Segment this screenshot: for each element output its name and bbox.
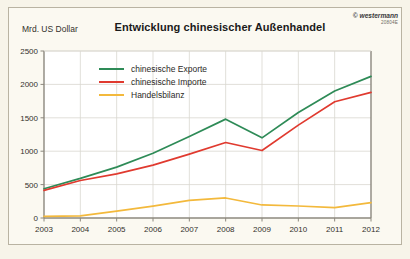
gridlines-group	[44, 51, 371, 218]
legend-item: chinesische Importe	[99, 75, 207, 88]
y-tick-label: 2500	[20, 47, 38, 56]
legend-item: chinesische Exporte	[99, 62, 207, 75]
legend-color-swatch	[99, 68, 124, 70]
x-tick-label: 2006	[144, 225, 162, 234]
x-tick-label: 2011	[326, 225, 344, 234]
legend-label: chinesische Importe	[131, 77, 207, 87]
legend-color-swatch	[99, 94, 124, 96]
y-tick-label: 2000	[20, 80, 38, 89]
series-line-0	[44, 76, 371, 188]
legend-color-swatch	[99, 81, 124, 83]
x-tick-label: 2004	[71, 225, 89, 234]
x-tick-label: 2003	[35, 225, 53, 234]
legend-label: Handelsbilanz	[131, 90, 184, 100]
data-series-group	[44, 76, 371, 216]
chart-frame: Mrd. US Dollar Entwicklung chinesischer …	[0, 0, 410, 259]
y-tick-label: 1500	[20, 114, 38, 123]
x-tick-label: 2008	[217, 225, 235, 234]
x-tick-label: 2009	[253, 225, 271, 234]
y-tick-labels-group: 05001000150020002500	[20, 47, 38, 223]
chart-legend: chinesische Exportechinesische ImporteHa…	[99, 62, 207, 101]
legend-label: chinesische Exporte	[131, 64, 207, 74]
x-tick-label: 2005	[108, 225, 126, 234]
x-tick-labels-group: 2003200420052006200720082009201020112012	[35, 225, 380, 234]
x-tick-label: 2012	[362, 225, 380, 234]
y-tick-label: 500	[25, 181, 39, 190]
chart-plot: 05001000150020002500 2003200420052006200…	[0, 0, 410, 259]
y-tick-label: 0	[34, 214, 39, 223]
series-line-1	[44, 92, 371, 190]
series-line-2	[44, 198, 371, 216]
y-tick-label: 1000	[20, 147, 38, 156]
x-tick-label: 2007	[180, 225, 198, 234]
legend-item: Handelsbilanz	[99, 88, 207, 101]
x-tick-label: 2010	[289, 225, 307, 234]
